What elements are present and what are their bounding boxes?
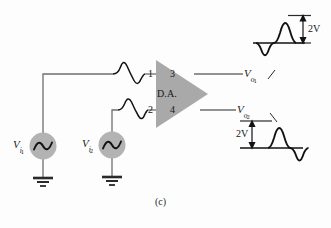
vi2-index: 2: [90, 147, 93, 154]
output-label-vo1: Vo1: [244, 68, 258, 82]
source-label-vi2: Vi2: [82, 138, 94, 152]
input-waveform-1: [113, 62, 145, 83]
output-label-vo2: Vo2: [237, 104, 251, 118]
ground-vi1: [33, 178, 53, 186]
pin-label-2: 2: [148, 104, 153, 115]
wire-vi1-to-pin1: [43, 74, 113, 133]
vo2-symbol: V: [237, 103, 244, 115]
vi2-symbol: V: [82, 137, 89, 149]
pin-label-4: 4: [170, 104, 175, 115]
vo2-index: 2: [246, 113, 249, 120]
amplifier-type-label: D.A.: [157, 88, 177, 99]
output-waveform-vo1: [253, 16, 311, 80]
input-waveform-2: [118, 99, 148, 119]
vi1-symbol: V: [13, 138, 20, 150]
vi1-index: 1: [21, 148, 24, 155]
vo1-index: 1: [253, 77, 256, 84]
differential-amplifier-figure: 1 2 3 4 D.A. Vi1 Vi2 Vo1 Vo2 2V 2V (c): [0, 0, 331, 228]
amplitude-label-vo2: 2V: [236, 128, 248, 139]
pin-label-1: 1: [148, 68, 153, 79]
ac-source-vi1-symbol: [30, 133, 57, 160]
wire-group: [43, 74, 243, 177]
ac-source-vi2-symbol: [99, 132, 126, 159]
source-label-vi1: Vi1: [13, 139, 25, 153]
output-waveform-vo2: [240, 113, 309, 161]
wire-vi2-to-pin2: [112, 110, 118, 132]
vo1-symbol: V: [244, 67, 251, 79]
amplitude-label-vo1: 2V: [308, 23, 320, 34]
figure-caption: (c): [155, 196, 166, 207]
pin-label-3: 3: [170, 68, 175, 79]
circuit-schematic-canvas: [0, 0, 331, 228]
ground-vi2: [102, 177, 122, 185]
